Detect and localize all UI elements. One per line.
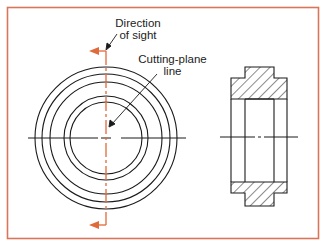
direction-arrow-bottom — [89, 221, 99, 229]
direction-arrow-top — [89, 47, 99, 55]
bottom-section-hatch — [231, 182, 287, 206]
label-line: of sight — [113, 29, 163, 41]
direction-of-sight-label: Direction of sight — [113, 17, 163, 41]
cutting-plane-line-label: Cutting-plane line — [135, 53, 210, 77]
label-line: line — [135, 65, 210, 77]
label-line: Cutting-plane — [135, 53, 210, 65]
top-section-hatch — [231, 67, 287, 99]
label-line: Direction — [113, 17, 163, 29]
